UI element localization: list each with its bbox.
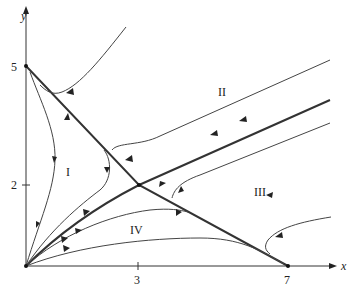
direction-arrows: [36, 88, 283, 252]
equilibrium-origin: [24, 264, 28, 268]
axes: [22, 6, 337, 270]
x-axis-label: x: [340, 259, 347, 273]
equilibrium-y-intercept: [24, 64, 28, 68]
y-tick-label-5: 5: [11, 60, 17, 74]
x-axis-arrow-icon: [329, 263, 337, 269]
x-tick-label-7: 7: [284, 273, 290, 287]
trajectory-region-I-left: [26, 72, 55, 266]
region-label-III: III: [254, 185, 266, 199]
region-label-IV: IV: [130, 223, 143, 237]
arrow-icon: [125, 155, 133, 162]
region-label-II: II: [218, 85, 226, 99]
trajectory-region-III-lower: [266, 217, 331, 254]
phase-portrait-figure: y x 3 7 2 5 I II III IV: [0, 0, 363, 296]
y-tick-label-2: 2: [11, 178, 17, 192]
arrow-icon: [64, 113, 70, 120]
arrow-icon: [159, 181, 166, 187]
region-label-I: I: [66, 165, 70, 179]
equilibrium-saddle: [137, 183, 141, 187]
equilibrium-x-intercept: [286, 264, 290, 268]
unstable-separatrix: [26, 100, 330, 266]
y-axis-label: y: [20, 9, 27, 23]
x-tick-label-3: 3: [134, 273, 140, 287]
arrow-icon: [239, 116, 247, 122]
arrow-icon: [266, 192, 273, 198]
arrow-icon: [75, 228, 82, 234]
trajectory-upper-left: [40, 27, 126, 93]
arrow-icon: [52, 156, 57, 163]
arrow-icon: [210, 130, 218, 136]
arrow-icon: [63, 245, 70, 252]
